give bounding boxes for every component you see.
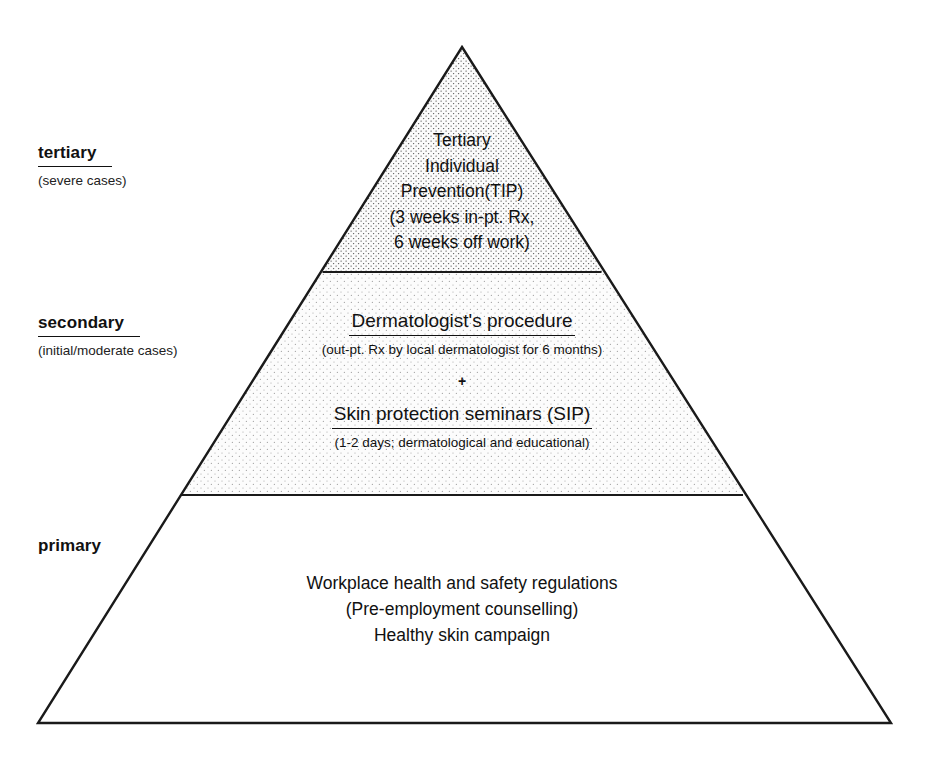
tertiary-line-2: Individual (332, 154, 592, 180)
primary-tier-text: Workplace health and safety regulations … (237, 570, 687, 648)
tier-label-tertiary-sublabel: (severe cases) (38, 172, 127, 189)
primary-line-3: Healthy skin campaign (237, 622, 687, 648)
tier-label-secondary: secondary (initial/moderate cases) (38, 312, 178, 359)
tier-label-secondary-sublabel: (initial/moderate cases) (38, 342, 178, 359)
secondary-block-2-heading: Skin protection seminars (SIP) (332, 401, 593, 429)
tertiary-line-1: Tertiary (332, 128, 592, 154)
tier-label-primary-name: primary (38, 535, 101, 556)
tier-label-tertiary-name: tertiary (38, 142, 112, 167)
pyramid-diagram: tertiary (severe cases) secondary (initi… (0, 0, 930, 757)
secondary-plus-separator: + (222, 373, 702, 389)
primary-line-2: (Pre-employment counselling) (237, 596, 687, 622)
secondary-tier-text: Dermatologist's procedure (out-pt. Rx by… (222, 308, 702, 452)
tier-label-primary: primary (38, 535, 101, 556)
secondary-block-seminars: Skin protection seminars (SIP) (1-2 days… (222, 401, 702, 452)
tertiary-line-3: Prevention(TIP) (332, 179, 592, 205)
primary-line-1: Workplace health and safety regulations (237, 570, 687, 596)
secondary-block-2-subtext: (1-2 days; dermatological and educationa… (222, 433, 702, 452)
secondary-block-1-heading: Dermatologist's procedure (349, 308, 574, 336)
tertiary-line-4: (3 weeks in-pt. Rx, (332, 205, 592, 231)
secondary-block-1-subtext: (out-pt. Rx by local dermatologist for 6… (222, 340, 702, 359)
tier-label-secondary-name: secondary (38, 312, 140, 337)
secondary-block-dermatologist: Dermatologist's procedure (out-pt. Rx by… (222, 308, 702, 359)
tier-label-tertiary: tertiary (severe cases) (38, 142, 127, 189)
tertiary-tier-text: Tertiary Individual Prevention(TIP) (3 w… (332, 128, 592, 256)
tertiary-line-5: 6 weeks off work) (332, 230, 592, 256)
